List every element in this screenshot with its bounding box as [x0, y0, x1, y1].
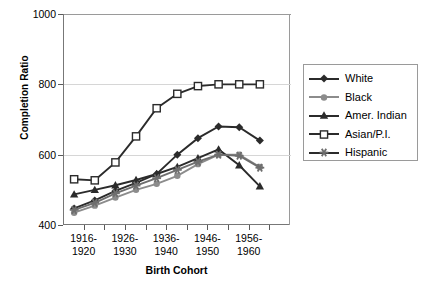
legend-label: Amer. Indian: [339, 109, 407, 121]
data-point-square: [71, 176, 78, 183]
legend-item-hispanic[interactable]: Hispanic: [304, 143, 417, 162]
x-tick-mark: [269, 225, 270, 230]
data-point-triangle: [214, 145, 222, 152]
x-tick-mark: [146, 225, 147, 230]
legend-item-asian-p-i[interactable]: Asian/P.I.: [304, 125, 417, 144]
y-tick-mark: [58, 225, 63, 226]
data-point-square: [236, 81, 243, 88]
data-point-diamond: [320, 75, 328, 83]
data-point-square: [153, 105, 160, 112]
y-tick-label: 400: [16, 220, 56, 231]
legend-item-black[interactable]: Black: [304, 88, 417, 107]
legend-label: Hispanic: [339, 146, 387, 158]
legend-label: Asian/P.I.: [339, 128, 391, 140]
legend-marker-triangle-icon: [309, 109, 339, 121]
y-tick-label: 1000: [16, 9, 56, 20]
data-point-circle: [133, 187, 139, 193]
data-point-square: [112, 159, 119, 166]
chart-figure: Completion Ratio 4006008001000 1916-1920…: [0, 0, 428, 287]
data-point-square: [194, 82, 201, 89]
x-tick-mark: [104, 225, 105, 230]
data-point-circle: [321, 94, 327, 100]
y-tick-label: 800: [16, 79, 56, 90]
data-point-square: [91, 177, 98, 184]
plot-area: [63, 14, 290, 225]
data-point-square: [256, 81, 263, 88]
x-axis-title: Birth Cohort: [63, 264, 290, 276]
legend-label: Black: [339, 91, 372, 103]
series-line: [74, 155, 260, 210]
legend-label: White: [339, 72, 373, 84]
legend-marker-star-icon: [309, 146, 339, 158]
y-tick-label: 600: [16, 150, 56, 161]
data-point-triangle: [320, 112, 328, 119]
x-tick-mark: [166, 225, 167, 230]
data-point-star: [320, 149, 329, 157]
legend-marker-square-icon: [309, 128, 339, 140]
data-point-square: [215, 81, 222, 88]
x-tick-mark: [84, 225, 85, 230]
data-point-square: [320, 131, 327, 138]
x-tick-mark: [187, 225, 188, 230]
legend-marker-diamond-icon: [309, 72, 339, 84]
x-tick-mark: [249, 225, 250, 230]
y-axis-title: Completion Ratio: [19, 28, 30, 168]
legend-item-amer-indian[interactable]: Amer. Indian: [304, 106, 417, 125]
x-tick-mark: [228, 225, 229, 230]
x-tick-label: 1956-1960: [221, 232, 277, 257]
series-line: [74, 84, 260, 180]
data-point-square: [132, 133, 139, 140]
series-lines: [64, 14, 291, 225]
series-line: [74, 127, 260, 209]
legend-marker-circle-icon: [309, 91, 339, 103]
chart-legend: WhiteBlackAmer. IndianAsian/P.I.Hispanic: [303, 64, 418, 161]
legend-item-white[interactable]: White: [304, 69, 417, 88]
data-point-diamond: [215, 123, 223, 131]
x-tick-mark: [125, 225, 126, 230]
x-tick-mark: [207, 225, 208, 230]
data-point-square: [174, 90, 181, 97]
